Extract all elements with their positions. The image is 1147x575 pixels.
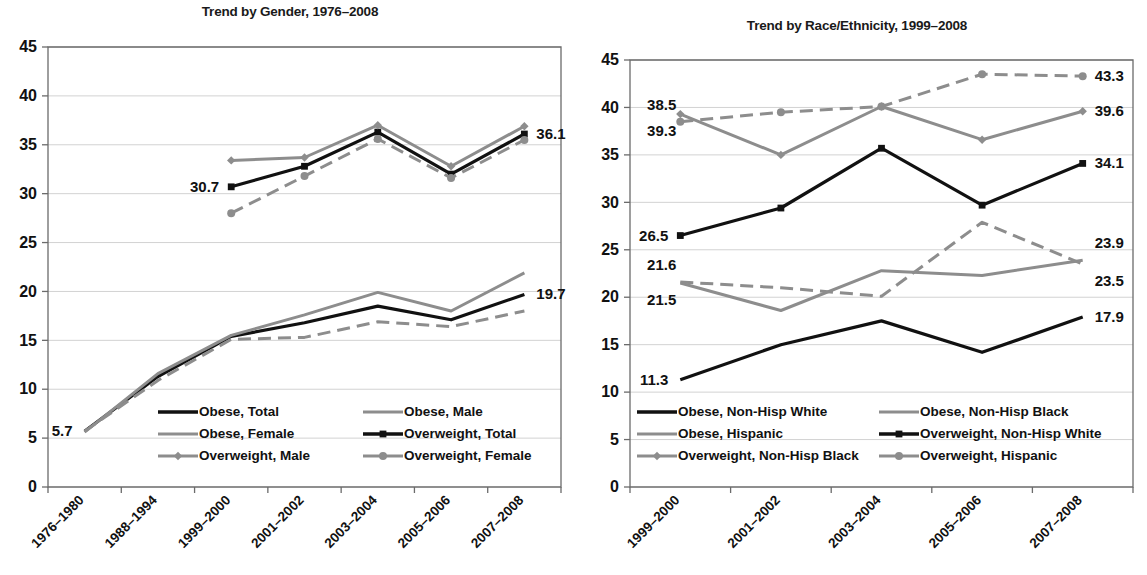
- chart-svg-gender: 0510152025303540451976–19801988–19941999…: [0, 0, 580, 575]
- x-tick-label: 1999–2000: [624, 493, 682, 551]
- y-tick-label: 5: [28, 429, 37, 446]
- y-tick-label: 0: [610, 478, 619, 495]
- series-marker: [227, 156, 235, 164]
- data-point-label: 39.6: [1095, 102, 1124, 119]
- legend-label: Overweight, Non-Hisp Black: [678, 448, 859, 463]
- data-point-label: 43.3: [1095, 67, 1124, 84]
- series-marker: [447, 174, 455, 182]
- legend-item[interactable]: Obese, Total: [158, 404, 279, 419]
- series-marker: [301, 172, 309, 180]
- y-tick-label: 15: [19, 332, 37, 349]
- y-tick-label: 0: [28, 478, 37, 495]
- y-tick-label: 20: [19, 283, 37, 300]
- data-labels: 5.730.736.119.7: [52, 125, 566, 439]
- y-tick-label: 35: [19, 136, 37, 153]
- legend-label: Overweight, Total: [404, 426, 516, 441]
- legend-label: Obese, Hispanic: [678, 426, 784, 441]
- series-line: [680, 74, 1082, 122]
- legend-swatch-marker: [379, 452, 387, 460]
- y-tick-label: 10: [601, 383, 619, 400]
- x-tick-label: 2007–2008: [1026, 492, 1085, 551]
- legend: Obese, TotalObese, MaleObese, FemaleOver…: [158, 404, 532, 463]
- data-point-label: 21.6: [647, 256, 676, 273]
- x-tick-label: 1976–1980: [28, 493, 86, 551]
- series-marker: [374, 129, 381, 136]
- chart-panel-race: Trend by Race/Ethnicity, 1999–2008 05101…: [567, 0, 1147, 575]
- legend-label: Overweight, Non-Hisp White: [920, 426, 1102, 441]
- series-marker: [374, 135, 382, 143]
- data-point-label: 23.5: [1095, 272, 1124, 289]
- series-line: [680, 148, 1082, 235]
- legend-item[interactable]: Overweight, Male: [158, 448, 311, 463]
- y-tick-label: 15: [601, 336, 619, 353]
- legend-item[interactable]: Obese, Non-Hisp White: [637, 404, 828, 419]
- series-marker: [878, 102, 886, 110]
- y-tick-label: 25: [601, 241, 619, 258]
- legend-label: Overweight, Hispanic: [920, 448, 1058, 463]
- legend: Obese, Non-Hisp WhiteObese, Non-Hisp Bla…: [637, 404, 1102, 463]
- x-tick-label: 1988–1994: [102, 492, 161, 551]
- x-tick-label: 1999–2000: [175, 493, 233, 551]
- y-tick-label: 45: [19, 38, 37, 55]
- y-tick-label: 30: [601, 194, 619, 211]
- series-marker: [1079, 160, 1086, 167]
- data-point-label: 21.5: [647, 291, 676, 308]
- series-marker: [227, 209, 235, 217]
- series-marker: [1079, 72, 1087, 80]
- series-marker: [300, 153, 308, 161]
- x-tick-label: 2001–2002: [725, 493, 783, 551]
- legend-item[interactable]: Obese, Male: [363, 404, 483, 419]
- y-tick-label: 5: [610, 431, 619, 448]
- legend-label: Obese, Total: [199, 404, 279, 419]
- legend-item[interactable]: Obese, Non-Hisp Black: [879, 404, 1069, 419]
- series-marker: [777, 108, 785, 116]
- gridlines: [48, 47, 561, 438]
- legend-swatch-marker: [896, 431, 903, 438]
- series-line: [680, 222, 1082, 296]
- chart-panel-gender: Trend by Gender, 1976–2008 0510152025303…: [0, 0, 580, 575]
- x-tick-label: 2003–2004: [322, 492, 381, 551]
- data-point-label: 5.7: [52, 422, 73, 439]
- legend-swatch-marker: [174, 452, 182, 460]
- series-marker: [1079, 107, 1087, 115]
- y-tick-label: 20: [601, 288, 619, 305]
- series-marker: [979, 202, 986, 209]
- legend-label: Obese, Non-Hisp Black: [920, 404, 1069, 419]
- y-axis: 051015202530354045: [601, 51, 630, 495]
- series-marker: [778, 205, 785, 212]
- data-point-label: 39.3: [647, 122, 676, 139]
- legend-label: Overweight, Female: [404, 448, 532, 463]
- legend-label: Overweight, Male: [199, 448, 311, 463]
- legend-label: Obese, Female: [199, 426, 295, 441]
- legend-item[interactable]: Overweight, Hispanic: [879, 448, 1058, 463]
- data-point-label: 26.5: [639, 227, 668, 244]
- y-tick-label: 30: [19, 185, 37, 202]
- legend-item[interactable]: Overweight, Non-Hisp Black: [637, 448, 859, 463]
- legend-item[interactable]: Overweight, Female: [363, 448, 532, 463]
- data-point-label: 23.9: [1095, 234, 1124, 251]
- y-axis: 051015202530354045: [19, 38, 48, 495]
- legend-item[interactable]: Obese, Hispanic: [637, 426, 784, 441]
- series-marker: [978, 70, 986, 78]
- series-line: [680, 317, 1082, 380]
- data-point-label: 34.1: [1095, 154, 1124, 171]
- series-marker: [677, 232, 684, 239]
- data-point-label: 11.3: [640, 371, 668, 388]
- chart-svg-race: 0510152025303540451999–20002001–20022003…: [567, 0, 1147, 575]
- x-tick-label: 2005–2006: [395, 492, 454, 551]
- x-tick-label: 2001–2002: [248, 493, 306, 551]
- series-marker: [676, 110, 684, 118]
- data-point-label: 36.1: [536, 125, 565, 142]
- series-marker: [878, 145, 885, 152]
- series-marker: [520, 136, 528, 144]
- y-tick-label: 40: [601, 99, 619, 116]
- legend-label: Obese, Non-Hisp White: [678, 404, 828, 419]
- series-marker: [301, 163, 308, 170]
- legend-item[interactable]: Overweight, Non-Hisp White: [879, 426, 1102, 441]
- x-axis: 1999–20002001–20022003–20042005–20062007…: [624, 487, 1133, 551]
- legend-label: Obese, Male: [404, 404, 483, 419]
- series-marker: [676, 118, 684, 126]
- x-axis: 1976–19801988–19941999–20002001–20022003…: [28, 487, 561, 551]
- y-tick-label: 35: [601, 146, 619, 163]
- plot-frame: [48, 47, 561, 487]
